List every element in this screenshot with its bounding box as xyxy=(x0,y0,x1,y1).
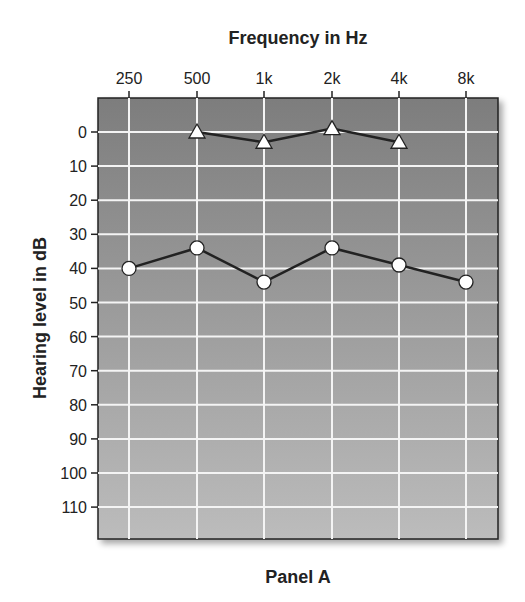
y-tick-label: 80 xyxy=(69,397,87,414)
audiogram-chart: 2505001k2k4k8k0102030405060708090100110 xyxy=(0,0,525,602)
x-tick-label: 2k xyxy=(324,70,342,87)
y-tick-label: 70 xyxy=(69,363,87,380)
x-tick-label: 500 xyxy=(184,70,211,87)
x-tick-label: 250 xyxy=(116,70,143,87)
y-tick-label: 20 xyxy=(69,192,87,209)
circle-marker xyxy=(122,261,136,275)
y-tick-label: 100 xyxy=(60,465,87,482)
x-tick-label: 1k xyxy=(256,70,274,87)
y-tick-label: 50 xyxy=(69,295,87,312)
y-tick-label: 40 xyxy=(69,260,87,277)
x-tick-label: 4k xyxy=(391,70,409,87)
y-tick-label: 90 xyxy=(69,431,87,448)
y-tick-label: 60 xyxy=(69,329,87,346)
circle-marker xyxy=(190,241,204,255)
circle-marker xyxy=(257,275,271,289)
y-tick-label: 30 xyxy=(69,226,87,243)
circle-marker xyxy=(459,275,473,289)
y-tick-label: 110 xyxy=(61,499,87,516)
circle-marker xyxy=(325,241,339,255)
y-tick-label: 0 xyxy=(78,124,87,141)
x-tick-label: 8k xyxy=(458,70,476,87)
circle-marker xyxy=(392,258,406,272)
y-tick-label: 10 xyxy=(69,158,87,175)
